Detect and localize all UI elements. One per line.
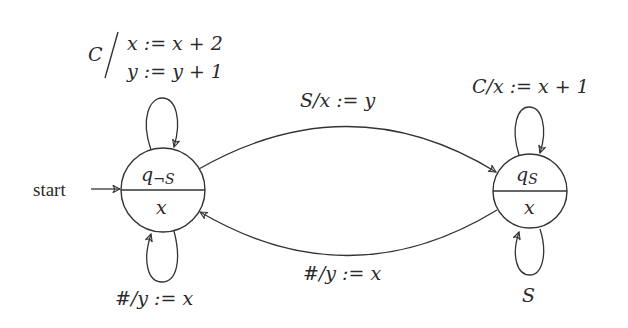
state-q-not-s[interactable]: q¬S x <box>121 148 205 232</box>
self-loop-q-not-s-top: C x := x + 2 y := y + 1 <box>88 32 223 150</box>
transition-label: S/x := y <box>300 89 376 111</box>
loop-arrow <box>515 229 543 275</box>
transition-q-s-to-q-not-s: #/y := x <box>200 210 497 284</box>
self-loop-q-s-bottom: S <box>515 229 543 306</box>
loop-action-2: y := y + 1 <box>126 60 223 82</box>
loop-label: C/x := x + 1 <box>472 75 589 97</box>
loop-action-1: x := x + 2 <box>127 32 223 54</box>
slash-divider <box>105 32 118 78</box>
transition-arrow <box>200 210 497 256</box>
state-q-s[interactable]: qS x <box>493 154 567 228</box>
self-loop-q-s-top: C/x := x + 1 <box>472 75 589 155</box>
loop-arrow <box>146 98 177 150</box>
start-indicator: start <box>33 179 120 200</box>
loop-label: S <box>522 284 535 306</box>
transition-q-not-s-to-q-s: S/x := y <box>197 89 496 172</box>
start-label: start <box>33 179 66 200</box>
state-output: x <box>156 196 167 218</box>
transition-arrow <box>197 126 496 172</box>
loop-input-label: C <box>88 43 103 65</box>
self-loop-q-not-s-bottom: #/y := x <box>115 231 193 309</box>
state-machine-diagram: start S/x := y #/y := x C x := x + 2 y :… <box>0 0 628 328</box>
loop-arrow <box>515 107 544 155</box>
state-output: x <box>524 196 535 218</box>
loop-arrow <box>147 231 178 282</box>
loop-label: #/y := x <box>115 287 193 309</box>
transition-label: #/y := x <box>303 262 381 284</box>
